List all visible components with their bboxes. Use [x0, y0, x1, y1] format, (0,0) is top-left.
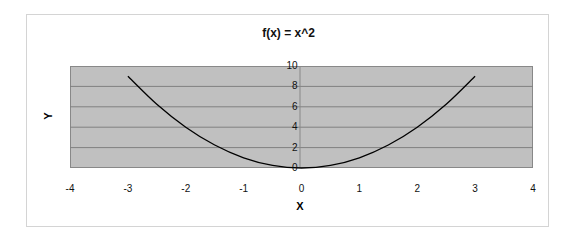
y-tick-label: 0 — [278, 162, 298, 173]
x-tick-label: 0 — [292, 183, 312, 194]
chart-svg — [0, 0, 577, 240]
series-line — [128, 76, 475, 168]
y-tick-label: 8 — [278, 80, 298, 91]
x-tick-label: 4 — [523, 183, 543, 194]
x-tick-label: -2 — [176, 183, 196, 194]
x-tick-label: -1 — [234, 183, 254, 194]
x-tick-label: 3 — [465, 183, 485, 194]
y-tick-label: 4 — [278, 121, 298, 132]
y-tick-label: 6 — [278, 101, 298, 112]
y-tick-label: 10 — [278, 60, 298, 71]
x-tick-label: -3 — [118, 183, 138, 194]
gridlines — [70, 86, 533, 147]
x-tick-label: 2 — [407, 183, 427, 194]
x-tick-label: 1 — [349, 183, 369, 194]
y-axis-label: Y — [42, 112, 54, 119]
x-tick-label: -4 — [60, 183, 80, 194]
x-axis-label: X — [292, 200, 308, 212]
y-tick-label: 2 — [278, 142, 298, 153]
